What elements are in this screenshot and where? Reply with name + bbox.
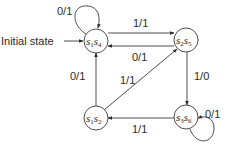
- state-s1s2: s1s2: [84, 106, 108, 130]
- state-s1s4: s1s4: [84, 29, 108, 53]
- edge-label-s1s2-s1s4: 0/1: [70, 70, 85, 82]
- state-s3s6: s3s6: [174, 105, 198, 129]
- edge-label-s1s2-s2s5: 1/1: [120, 74, 135, 86]
- state-diagram: Initial state 0/1 1/1 0/1 1/0 0/1 1/1 0/…: [0, 0, 227, 150]
- edge-label-s3s6-self: 0/1: [205, 108, 220, 120]
- edge-label-s2s5-s1s4: 0/1: [132, 51, 147, 63]
- edge-label-s1s4-self: 0/1: [57, 5, 72, 17]
- edge-label-s2s5-s3s6: 1/0: [194, 70, 209, 82]
- state-s2s5: s2s5: [174, 28, 198, 52]
- initial-state-label: Initial state: [1, 35, 54, 47]
- edge-label-s3s6-s1s2: 1/1: [132, 123, 147, 135]
- edge-label-s1s4-s2s5: 1/1: [133, 17, 148, 29]
